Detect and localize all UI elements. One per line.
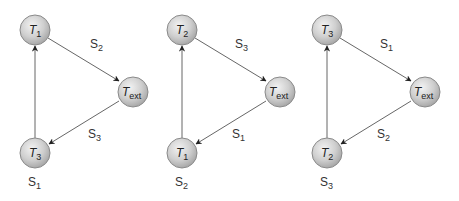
edge-top-to-ext — [195, 38, 266, 81]
edge-label-bottom-top: S1 — [28, 175, 41, 191]
edge-label-ext-bottom: S2 — [377, 127, 390, 143]
node-bottom: T2 — [312, 138, 342, 168]
edge-label-ext-bottom: S1 — [232, 127, 245, 143]
edge-label-bottom-top: S3 — [320, 175, 333, 191]
node-top: T2 — [167, 15, 197, 45]
edge-label-top-ext: S1 — [380, 37, 393, 53]
node-top: T1 — [20, 15, 50, 45]
edge-ext-to-bottom — [49, 101, 119, 144]
diagram-1: T1 Text T3 S2 S3 S1 — [20, 15, 148, 191]
node-ext: Text — [265, 77, 295, 107]
edge-label-top-ext: S2 — [90, 37, 103, 53]
node-top: T3 — [312, 15, 342, 45]
node-bottom: T1 — [167, 138, 197, 168]
node-bottom: T3 — [20, 138, 50, 168]
edge-ext-to-bottom — [196, 101, 266, 144]
edge-top-to-ext — [340, 38, 411, 81]
node-ext: Text — [118, 77, 148, 107]
node-ext: Text — [410, 77, 440, 107]
edge-label-bottom-top: S2 — [175, 175, 188, 191]
diagram-2: T2 Text T1 S3 S1 S2 — [167, 15, 295, 191]
diagram-3: T3 Text T2 S1 S2 S3 — [312, 15, 440, 191]
edge-ext-to-bottom — [341, 101, 411, 144]
edge-label-ext-bottom: S3 — [88, 127, 101, 143]
cycle-diagrams: T1 Text T3 S2 S3 S1 T2 Text T1 S3 S1 S2 … — [0, 0, 459, 201]
edge-top-to-ext — [48, 38, 119, 81]
edge-label-top-ext: S3 — [235, 37, 248, 53]
